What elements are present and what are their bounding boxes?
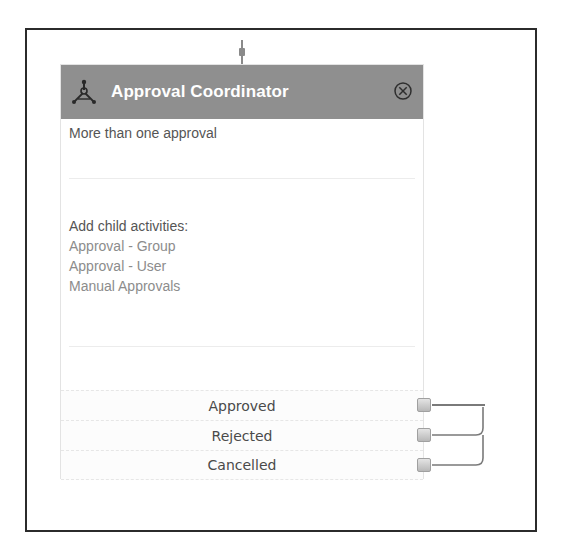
- activity-title: Approval Coordinator: [111, 82, 289, 102]
- approval-coordinator-activity[interactable]: Approval Coordinator More than one appro…: [60, 64, 424, 479]
- close-icon[interactable]: [393, 81, 413, 101]
- connector-port-icon[interactable]: [417, 398, 431, 412]
- add-child-approval-user-link[interactable]: Approval - User: [69, 256, 188, 276]
- outcome-connector-lines[interactable]: [430, 395, 490, 475]
- coordinator-fork-icon: [69, 77, 99, 107]
- activity-header[interactable]: Approval Coordinator: [61, 65, 423, 119]
- connector-port-icon[interactable]: [417, 458, 431, 472]
- outcome-rejected[interactable]: Rejected: [61, 420, 423, 450]
- outcome-label: Cancelled: [208, 457, 277, 473]
- add-child-manual-approvals-link[interactable]: Manual Approvals: [69, 276, 188, 296]
- incoming-connector-arrow: [241, 40, 243, 64]
- add-child-approval-group-link[interactable]: Approval - Group: [69, 236, 188, 256]
- outcomes-list: Approved Rejected Cancelled: [61, 390, 423, 480]
- outcome-label: Approved: [208, 398, 275, 414]
- outcome-cancelled[interactable]: Cancelled: [61, 450, 423, 480]
- activity-description: More than one approval: [69, 125, 217, 141]
- outcome-approved[interactable]: Approved: [61, 390, 423, 420]
- divider: [69, 346, 415, 347]
- divider: [69, 178, 415, 179]
- outcome-label: Rejected: [212, 428, 273, 444]
- child-activities-label: Add child activities:: [69, 216, 188, 236]
- connector-port-icon[interactable]: [417, 428, 431, 442]
- child-activities-section: Add child activities: Approval - Group A…: [69, 216, 188, 296]
- activity-body: More than one approval Add child activit…: [61, 119, 423, 390]
